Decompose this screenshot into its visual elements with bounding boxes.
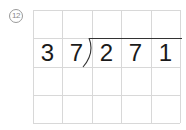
quotient-cell[interactable]: [92, 10, 121, 39]
dividend-digit: 1: [151, 38, 180, 67]
quotient-cell[interactable]: [62, 10, 91, 39]
quotient-cell[interactable]: [33, 10, 62, 39]
grid-line: [33, 67, 180, 68]
dividend-digit: 2: [92, 38, 121, 67]
divisor-digit: 3: [33, 38, 62, 67]
long-division-grid: 3 7 2 7 1: [33, 10, 180, 123]
quotient-cell[interactable]: [151, 10, 180, 39]
quotient-cell[interactable]: [121, 10, 150, 39]
grid-line: [180, 10, 181, 123]
problem-number-badge: 12: [9, 9, 23, 23]
division-bar: [89, 38, 182, 39]
grid-line: [33, 95, 180, 96]
dividend-digit: 7: [121, 38, 150, 67]
grid-line: [33, 123, 180, 124]
division-bracket-icon: [81, 38, 93, 68]
